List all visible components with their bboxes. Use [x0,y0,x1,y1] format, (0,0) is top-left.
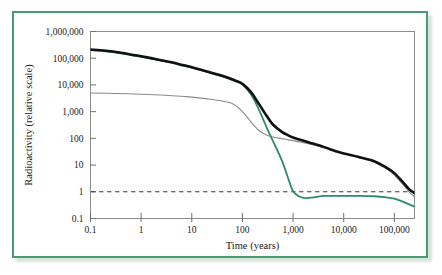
chart-plot-area: 0.11101001,00010,000100,0001,000,0000.11… [0,0,442,275]
x-tick-label: 100 [235,225,250,235]
figure-root: 0.11101001,00010,000100,0001,000,0000.11… [0,0,442,275]
x-axis-title: Time (years) [226,240,280,252]
radioactivity-decay-chart: 0.11101001,00010,000100,0001,000,0000.11… [0,0,442,275]
series-total-spent-fuel [91,50,415,193]
y-tick-label: 1 [79,187,84,197]
series-reprocessed-waste [91,50,415,206]
y-tick-label: 100 [69,134,84,144]
x-tick-label: 10 [187,225,197,235]
x-tick-label: 0.1 [85,225,97,235]
y-tick-label: 1,000 [62,107,84,117]
y-tick-label: 1,000,000 [46,27,84,37]
y-tick-label: 0.1 [72,214,84,224]
x-tick-label: 1 [139,225,144,235]
data-series-group [91,50,415,207]
axis-frame [91,32,415,219]
y-axis-title: Radioactivity (relative scale) [23,64,35,186]
y-tick-label: 10 [74,160,84,170]
x-tick-label: 100,000 [379,225,410,235]
series-fission-products [91,93,415,197]
y-tick-label: 10,000 [57,80,83,90]
y-tick-label: 100,000 [53,54,84,64]
axis-titles: Time (years) Radioactivity (relative sca… [23,64,280,252]
axis-tick-labels: 0.11101001,00010,000100,0001,000,0000.11… [46,27,411,235]
x-tick-label: 10,000 [331,225,357,235]
x-tick-label: 1,000 [282,225,304,235]
axis-ticks [91,32,395,223]
